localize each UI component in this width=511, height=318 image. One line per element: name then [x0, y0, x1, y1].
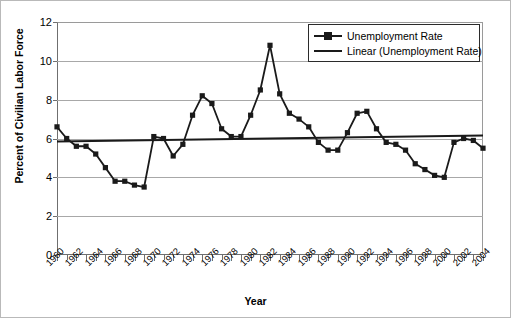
data-point-marker [190, 113, 195, 118]
y-tick-label: 10 [20, 56, 52, 67]
series-line-unemployment-rate [57, 45, 483, 187]
data-point-marker [287, 111, 292, 116]
data-point-marker [238, 134, 243, 139]
data-point-marker [461, 136, 466, 141]
data-point-marker [393, 142, 398, 147]
y-tick-label: 8 [20, 95, 52, 106]
data-point-marker [432, 173, 437, 178]
legend-label: Linear (Unemployment Rate) [347, 45, 482, 57]
legend: Unemployment Rate Linear (Unemployment R… [308, 24, 480, 62]
data-point-marker [296, 116, 301, 121]
y-tick-label: 6 [20, 134, 52, 145]
data-point-marker [413, 161, 418, 166]
data-point-marker [258, 87, 263, 92]
data-point-marker [316, 140, 321, 145]
data-point-marker [248, 113, 253, 118]
legend-line-icon [313, 44, 343, 58]
y-tick-label: 12 [20, 17, 52, 28]
data-point-marker [132, 183, 137, 188]
data-point-marker [112, 179, 117, 184]
data-point-marker [355, 111, 360, 116]
data-point-marker [451, 140, 456, 145]
data-point-marker [54, 124, 59, 129]
unemployment-rate-chart: Percent of Civilian Labor Force 02468101… [0, 0, 511, 318]
data-point-marker [171, 153, 176, 158]
data-point-marker [229, 134, 234, 139]
legend-marker-line-icon [313, 29, 343, 43]
data-point-marker [442, 175, 447, 180]
data-point-marker [122, 179, 127, 184]
data-point-marker [471, 138, 476, 143]
data-point-marker [374, 126, 379, 131]
data-point-marker [64, 136, 69, 141]
data-point-marker [200, 93, 205, 98]
data-point-marker [142, 184, 147, 189]
y-tick-label: 4 [20, 172, 52, 183]
data-point-marker [325, 148, 330, 153]
legend-item-linear-trend: Linear (Unemployment Rate) [313, 43, 475, 58]
data-point-marker [384, 140, 389, 145]
data-point-marker [219, 126, 224, 131]
data-point-marker [74, 144, 79, 149]
data-point-marker [480, 146, 485, 151]
data-point-marker [151, 134, 156, 139]
data-point-marker [267, 43, 272, 48]
trendline [57, 136, 483, 142]
data-point-marker [103, 165, 108, 170]
y-tick-label: 2 [20, 211, 52, 222]
data-point-marker [335, 148, 340, 153]
data-point-marker [209, 101, 214, 106]
data-point-marker [403, 148, 408, 153]
data-point-marker [161, 136, 166, 141]
data-point-marker [306, 124, 311, 129]
x-axis-title: Year [0, 295, 511, 307]
data-point-marker [345, 130, 350, 135]
data-point-marker [180, 142, 185, 147]
legend-label: Unemployment Rate [347, 30, 443, 42]
data-point-marker [422, 167, 427, 172]
data-point-marker [83, 144, 88, 149]
legend-item-unemployment-rate: Unemployment Rate [313, 28, 475, 43]
data-point-marker [364, 109, 369, 114]
data-point-marker [93, 151, 98, 156]
data-point-marker [277, 91, 282, 96]
